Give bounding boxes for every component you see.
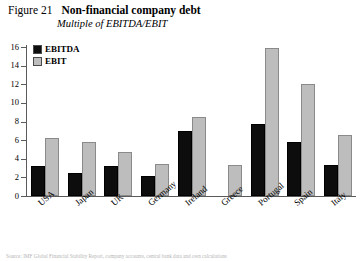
- chart-plot-area: 0246810121416 EBITDA EBIT USAJapanUKGerm…: [0, 0, 363, 261]
- bar-uk-ebitda: [104, 166, 118, 196]
- bar-japan-ebitda: [68, 173, 82, 196]
- bar-usa-ebitda: [31, 166, 45, 196]
- bar-portugal-ebitda: [251, 124, 265, 196]
- bar-italy-ebit: [338, 135, 352, 196]
- bar-portugal-ebit: [265, 48, 279, 196]
- bar-italy-ebitda: [324, 165, 338, 196]
- bar-spain-ebit: [301, 84, 315, 196]
- chart-bars: [0, 0, 363, 261]
- bar-ireland-ebitda: [178, 131, 192, 196]
- source-note: Source: IMF Global Financial Stability R…: [6, 253, 358, 260]
- bar-spain-ebitda: [287, 142, 301, 196]
- bar-uk-ebit: [118, 152, 132, 196]
- bar-usa-ebit: [45, 138, 59, 196]
- figure-container: Figure 21 Non-financial company debt Mul…: [0, 0, 363, 261]
